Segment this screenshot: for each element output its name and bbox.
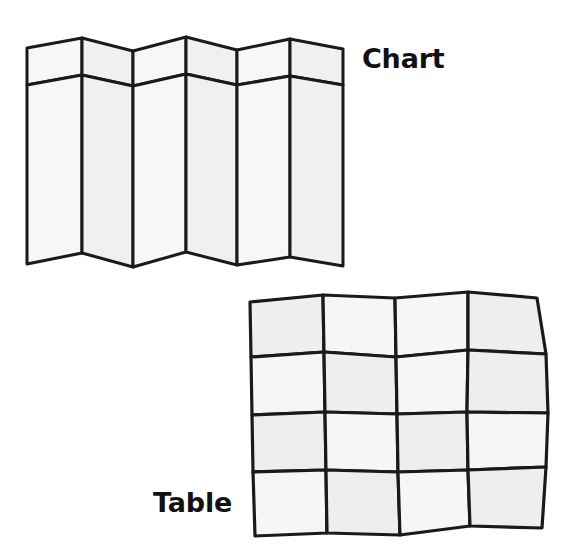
table-cell-r4c1 [253, 470, 327, 536]
table-cell-r2c4 [467, 350, 548, 413]
table-cell-r3c3 [397, 412, 468, 472]
table-cell-r1c1 [250, 295, 324, 357]
chart-panel-bottom-1 [27, 75, 82, 264]
table-cell-r3c1 [252, 412, 326, 472]
table-cell-r1c4 [468, 292, 546, 354]
table-cell-r4c2 [326, 470, 400, 535]
diagram-illustration: Chart Table [0, 0, 567, 544]
table-grid-group [250, 292, 548, 536]
table-cell-r4c3 [398, 470, 470, 535]
table-cell-r4c4 [468, 467, 546, 528]
table-cell-r2c1 [251, 352, 325, 415]
table-cell-r2c3 [396, 350, 468, 414]
chart-panel-bottom-2 [82, 75, 133, 267]
table-cell-r3c2 [325, 412, 398, 472]
chart-panel-bottom-5 [237, 76, 290, 265]
table-label: Table [153, 487, 232, 518]
chart-panel-bottom-4 [186, 74, 237, 265]
table-cell-r2c2 [324, 352, 397, 414]
chart-panel-bottom-3 [133, 74, 186, 267]
table-cell-r3c4 [467, 412, 548, 470]
chart-accordion-group [27, 37, 343, 267]
chart-panel-bottom-6 [290, 76, 343, 266]
figure-canvas: Chart Table [0, 0, 567, 544]
table-cell-r1c2 [323, 295, 396, 357]
chart-label: Chart [362, 43, 445, 74]
table-cell-r1c3 [395, 292, 468, 357]
